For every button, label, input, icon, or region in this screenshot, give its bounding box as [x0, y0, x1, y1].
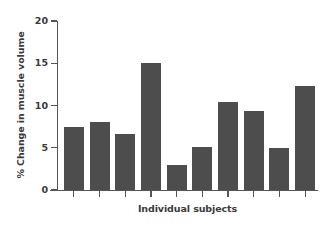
- y-tick-label: 15: [2, 58, 48, 68]
- bar: [218, 102, 238, 190]
- x-tick-mark: [176, 191, 177, 197]
- bar: [192, 147, 212, 190]
- x-tick-mark: [202, 191, 203, 197]
- x-tick-mark: [73, 191, 74, 197]
- bar: [115, 134, 135, 190]
- y-tick-label: 20: [2, 16, 48, 26]
- y-tick-label-wrap: 0: [0, 185, 48, 195]
- y-tick-label: 10: [2, 101, 48, 111]
- x-axis-line: [50, 190, 318, 191]
- bar: [295, 86, 315, 190]
- bar: [141, 63, 161, 190]
- y-tick-label-wrap: 5: [0, 143, 48, 153]
- x-tick-mark: [227, 191, 228, 197]
- x-tick-mark: [305, 191, 306, 197]
- x-tick-mark: [150, 191, 151, 197]
- bar: [167, 165, 187, 190]
- bar: [244, 111, 264, 190]
- y-tick-label-wrap: 10: [0, 101, 48, 111]
- y-tick-label: 5: [2, 143, 48, 153]
- bar: [64, 127, 84, 190]
- bar: [269, 148, 289, 190]
- x-tick-mark: [253, 191, 254, 197]
- y-tick-label: 0: [2, 185, 48, 195]
- x-tick-mark: [99, 191, 100, 197]
- y-tick-label-wrap: 15: [0, 58, 48, 68]
- bar: [90, 122, 110, 190]
- bar-chart: % Change in muscle volume 05101520 Indiv…: [0, 0, 334, 229]
- x-tick-mark: [125, 191, 126, 197]
- x-axis-title: Individual subjects: [57, 203, 318, 214]
- plot-area: [57, 21, 318, 190]
- x-tick-mark: [279, 191, 280, 197]
- y-tick-label-wrap: 20: [0, 16, 48, 26]
